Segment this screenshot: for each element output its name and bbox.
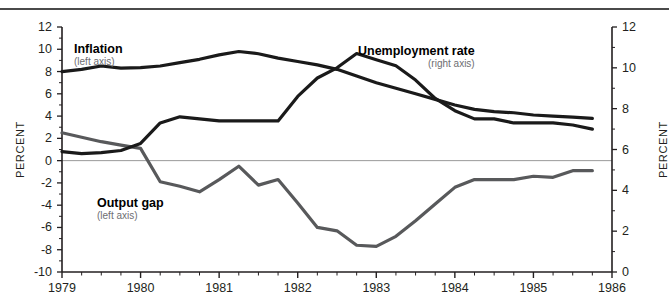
series-label-unemployment: Unemployment rate (right axis)	[358, 44, 475, 70]
y-axis-left-tick-label: -2	[18, 177, 52, 190]
y-axis-left-title: PERCENT	[14, 121, 26, 178]
y-axis-right-tick-label: 0	[622, 266, 656, 279]
x-axis-tick-label: 1982	[273, 282, 323, 295]
y-axis-right-tick-label: 4	[622, 184, 656, 197]
y-axis-left-tick-label: -4	[18, 199, 52, 212]
x-axis-tick-label: 1983	[351, 282, 401, 295]
series-label-inflation-name: Inflation	[74, 42, 123, 56]
y-axis-right-tick-label: 8	[622, 103, 656, 116]
y-axis-left-tick-label: 12	[18, 21, 52, 34]
y-axis-left-tick-label: -8	[18, 244, 52, 257]
series-label-unemployment-axis-note: (right axis)	[358, 58, 475, 70]
x-axis-tick-label: 1981	[194, 282, 244, 295]
y-axis-right-tick-label: 12	[622, 21, 656, 34]
y-axis-left-tick-label: 6	[18, 88, 52, 101]
series-label-inflation-axis-note: (left axis)	[74, 56, 123, 68]
chart-figure: 12 10 8 6 4 2 0 -2 -4 -6 -8 -10 12 10 8 …	[0, 0, 669, 304]
series-line-inflation	[62, 52, 592, 119]
x-axis-tick-label: 1979	[37, 282, 87, 295]
x-axis-tick-label: 1980	[116, 282, 166, 295]
series-label-output-gap-name: Output gap	[97, 196, 164, 210]
x-axis-tick-label: 1985	[508, 282, 558, 295]
series-label-inflation: Inflation (left axis)	[74, 42, 123, 68]
x-axis-tick-label: 1986	[587, 282, 637, 295]
y-axis-left-tick-label: 8	[18, 66, 52, 79]
y-axis-right-tick-label: 10	[622, 62, 656, 75]
y-axis-left-tick-label: -6	[18, 221, 52, 234]
x-axis-tick-label: 1984	[430, 282, 480, 295]
series-label-unemployment-name: Unemployment rate	[358, 44, 475, 58]
series-label-output-gap: Output gap (left axis)	[97, 196, 164, 222]
series-line-output-gap	[62, 133, 592, 247]
y-axis-left-tick-label: -10	[18, 266, 52, 279]
series-label-output-gap-axis-note: (left axis)	[97, 210, 164, 222]
y-axis-left-tick-label: 10	[18, 43, 52, 56]
y-axis-right-tick-label: 2	[622, 225, 656, 238]
y-axis-right-title: PERCENT	[657, 121, 669, 178]
y-axis-right-tick-label: 6	[622, 144, 656, 157]
